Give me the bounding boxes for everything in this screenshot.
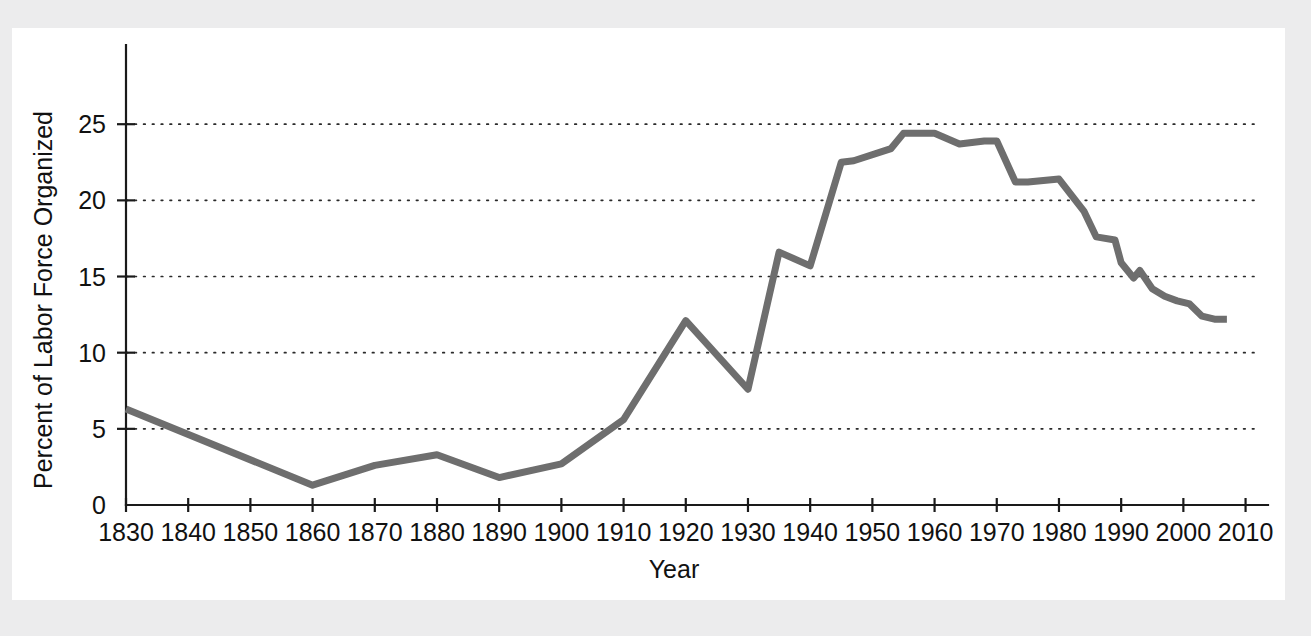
x-tick-label: 1940 — [782, 518, 838, 546]
axes-group — [126, 45, 1268, 505]
x-tick-label: 1990 — [1093, 518, 1149, 546]
y-tick-label: 25 — [78, 110, 106, 138]
x-tick-label: 1840 — [160, 518, 216, 546]
x-tick-label: 2000 — [1156, 518, 1212, 546]
y-tick-label-group: 0510152025 — [78, 110, 106, 519]
y-tick-label: 20 — [78, 186, 106, 214]
y-axis-title: Percent of Labor Force Organized — [29, 111, 57, 489]
y-tick-label: 15 — [78, 263, 106, 291]
x-tick-label: 1920 — [658, 518, 714, 546]
x-tick-label: 1860 — [285, 518, 341, 546]
y-tick-label: 5 — [92, 415, 106, 443]
y-tick-label: 10 — [78, 339, 106, 367]
x-tick-label: 1970 — [969, 518, 1025, 546]
x-tick-label: 1850 — [223, 518, 279, 546]
data-series-line — [126, 133, 1227, 485]
x-tick-label: 1950 — [845, 518, 901, 546]
x-axis-title: Year — [649, 555, 700, 583]
x-tick-label: 1890 — [471, 518, 527, 546]
x-tick-label: 1960 — [907, 518, 963, 546]
x-tick-label: 1870 — [347, 518, 403, 546]
line-chart: 1830184018501860187018801890190019101920… — [0, 0, 1311, 636]
chart-figure: 1830184018501860187018801890190019101920… — [0, 0, 1311, 636]
x-tick-label: 1880 — [409, 518, 465, 546]
gridlines-group — [126, 124, 1258, 429]
y-tick-label: 0 — [92, 491, 106, 519]
x-tick-label: 1900 — [534, 518, 590, 546]
x-tick-label: 1910 — [596, 518, 652, 546]
x-tick-label: 1930 — [720, 518, 776, 546]
x-tick-label: 2010 — [1218, 518, 1274, 546]
x-tick-label: 1830 — [98, 518, 154, 546]
data-series-group — [126, 133, 1227, 485]
x-tick-label: 1980 — [1031, 518, 1087, 546]
x-tick-label-group: 1830184018501860187018801890190019101920… — [98, 518, 1273, 546]
